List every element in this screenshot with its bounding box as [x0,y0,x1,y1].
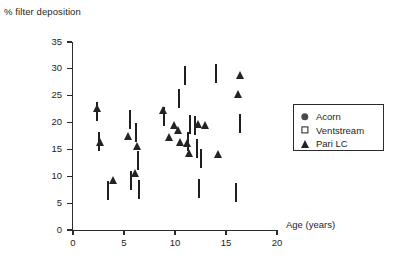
x-axis-tick-mark [123,230,124,235]
x-axis-tick-mark [174,230,175,235]
marker-open-square [138,180,140,199]
marker-filled-triangle [109,159,117,184]
x-axis-tick-label: 15 [211,237,241,248]
data-point [236,54,244,72]
marker-filled-triangle [159,89,167,114]
marker-filled-triangle [236,54,244,79]
data-point [159,89,167,107]
data-point [109,159,117,177]
data-point [214,133,222,151]
legend-label: Acorn [316,111,341,122]
data-point [200,150,202,168]
x-axis-tick-mark [225,230,226,235]
data-point [96,121,104,139]
y-axis-tick-label: 35 [28,36,62,47]
y-axis-tick-mark [67,176,72,177]
marker-filled-triangle [133,125,141,150]
marker-open-square [196,139,198,158]
marker-filled-circle [301,113,308,120]
marker-filled-triangle [201,104,209,129]
marker-open-square [184,66,186,85]
data-point [107,182,109,200]
y-axis-tick-label: 5 [28,197,62,208]
data-point [185,132,193,150]
marker-open-square [198,179,200,198]
legend-label: Pari LC [316,138,348,149]
data-point [239,115,241,133]
data-point [198,180,200,198]
y-axis-tick-label: 15 [28,143,62,154]
marker-filled-triangle [185,132,193,157]
x-axis-tick-label: 20 [262,237,292,248]
y-axis-title: % filter deposition [4,6,81,17]
x-axis-tick-mark [276,230,277,235]
marker-filled-triangle [301,140,309,148]
y-axis-tick-label: 30 [28,62,62,73]
x-axis-tick-mark [72,230,73,235]
scatter-chart-figure: % filter deposition 05101520253035 05101… [0,0,398,259]
marker-open-square [107,181,109,200]
marker-filled-triangle [93,87,101,112]
y-axis-tick-mark [67,95,72,96]
data-point [184,67,186,85]
data-point [196,140,198,158]
data-point [131,152,139,170]
legend: AcornVentstreamPari LC [293,104,384,151]
marker-open-square [301,126,308,133]
x-axis-tick-label: 0 [58,237,88,248]
y-axis-tick-mark [67,122,72,123]
y-axis-tick-label: 20 [28,116,62,127]
data-point [178,90,180,108]
data-point [201,104,209,122]
y-axis-tick-label: 10 [28,170,62,181]
legend-item-pari-lc[interactable]: Pari LC [294,136,383,151]
marker-open-square [215,64,217,83]
marker-open-square [239,114,241,133]
data-point [138,181,140,199]
y-axis-tick-mark [67,149,72,150]
marker-open-square [235,183,237,202]
marker-filled-triangle [131,152,139,177]
marker-open-square [200,149,202,168]
data-point [215,65,217,83]
marker-filled-triangle [124,115,132,140]
y-axis-tick-mark [67,68,72,69]
data-point [235,184,237,202]
y-axis-tick-label: 25 [28,89,62,100]
plot-area [73,42,277,230]
data-point [124,115,132,133]
legend-marker [294,136,316,151]
x-axis-title: Age (years) [286,219,335,230]
y-axis-tick-mark [67,41,72,42]
marker-open-square [178,89,180,108]
marker-filled-triangle [96,121,104,146]
legend-label: Ventstream [316,125,364,136]
y-axis-tick-mark [67,203,72,204]
x-axis-tick-label: 5 [109,237,139,248]
y-axis-tick-label: 0 [28,224,62,235]
y-axis-tick-mark [67,229,72,230]
data-point [133,125,141,143]
x-axis-tick-label: 10 [160,237,190,248]
data-point [93,87,101,105]
marker-filled-triangle [214,133,222,158]
